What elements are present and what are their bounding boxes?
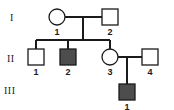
generation-label-iii: III (4, 86, 16, 96)
individual-number-ii-4: 4 (147, 68, 152, 77)
pedigree-svg-canvas (0, 0, 174, 110)
pedigree-chart: IIIIII 1212341 (0, 0, 174, 110)
pedigree-symbol-square-iii-1[interactable] (119, 84, 135, 100)
pedigree-symbol-square-ii-2[interactable] (60, 49, 76, 65)
pedigree-symbol-circle-ii-3[interactable] (102, 49, 118, 65)
pedigree-symbol-square-ii-1[interactable] (28, 49, 44, 65)
individual-number-iii-1: 1 (124, 103, 129, 110)
individual-number-ii-3: 3 (107, 68, 112, 77)
individual-number-i-2: 2 (107, 28, 112, 37)
individual-number-ii-2: 2 (65, 68, 70, 77)
individual-number-ii-1: 1 (33, 68, 38, 77)
pedigree-symbol-square-i-2[interactable] (102, 9, 118, 25)
generation-label-ii: II (7, 54, 15, 64)
pedigree-symbol-square-ii-4[interactable] (142, 49, 158, 65)
generation-label-i: I (10, 13, 14, 23)
pedigree-symbol-circle-i-1[interactable] (49, 9, 65, 25)
individual-number-i-1: 1 (54, 28, 59, 37)
